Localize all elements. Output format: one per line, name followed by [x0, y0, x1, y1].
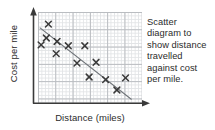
- scatter-diagram-figure: Cost per mile Distance (miles) Scatter d…: [0, 0, 215, 130]
- caption-line: travelled: [147, 51, 213, 62]
- y-axis-label: Cost per mile: [8, 19, 19, 89]
- caption-line: Scatter: [147, 17, 213, 28]
- x-axis-label: Distance (miles): [34, 112, 146, 123]
- caption-line: diagram to: [147, 28, 213, 39]
- x-axis-arrow-head-icon: [142, 100, 150, 107]
- caption-line: per mile.: [147, 74, 213, 85]
- caption-line: show distance: [147, 40, 213, 51]
- caption-line: against cost: [147, 63, 213, 74]
- caption-text-block: Scatter diagram to show distance travell…: [147, 17, 213, 85]
- y-axis-arrow-head-icon: [30, 7, 37, 16]
